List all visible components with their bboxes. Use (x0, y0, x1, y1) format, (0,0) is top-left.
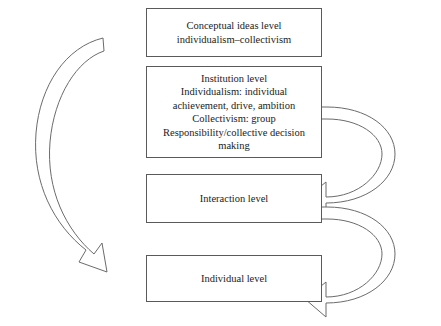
conceptual-ideas-level-label: Conceptual ideas level individualism–col… (171, 19, 297, 46)
diagram-canvas: Conceptual ideas level individualism–col… (0, 0, 441, 326)
individual-level-box: Individual level (146, 255, 322, 302)
institution-level-box: Institution level Individualism: individ… (146, 66, 322, 158)
interaction-level-label: Interaction level (194, 192, 275, 206)
conceptual-ideas-level-box: Conceptual ideas level individualism–col… (146, 8, 322, 57)
institution-level-label: Institution level Individualism: individ… (157, 72, 311, 153)
interaction-level-box: Interaction level (146, 174, 322, 223)
downward-curved-arrow (36, 38, 107, 272)
individual-level-label: Individual level (195, 272, 273, 286)
